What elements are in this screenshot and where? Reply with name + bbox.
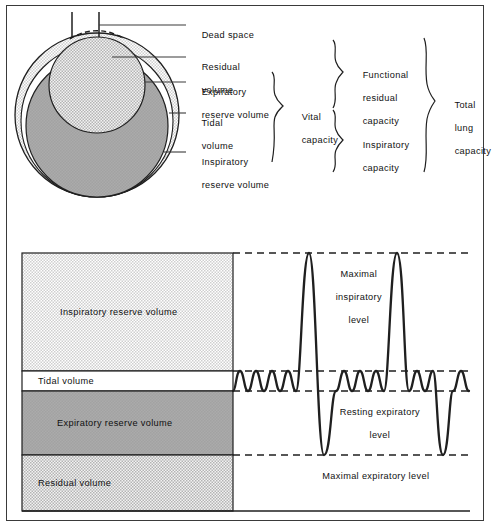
band-label-inspiratory-reserve-volume: Inspiratory reserve volume [60,307,177,317]
level-label-resting-expiratory: Resting expiratory level [316,396,432,453]
band-label-residual-volume: Residual volume [38,478,111,488]
band-label-expiratory-reserve-volume: Expiratory reserve volume [57,418,172,428]
figure-root: Dead space Residual volume Expiratory re… [0,0,492,529]
level-label-maximal-inspiratory: Maximal inspiratory level [313,258,393,338]
band-label-tidal-volume: Tidal volume [38,376,94,386]
level-label-maximal-expiratory: Maximal expiratory level [290,460,450,494]
